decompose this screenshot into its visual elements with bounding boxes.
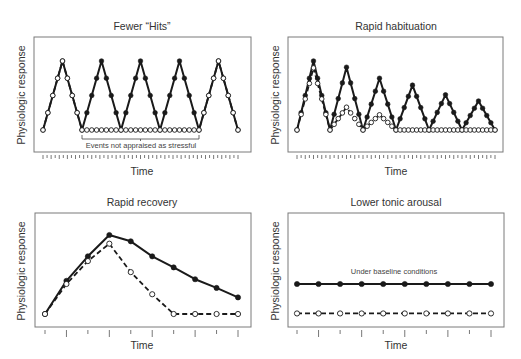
- open-marker: [55, 76, 60, 81]
- y-axis-label: Physiologic response: [15, 45, 27, 144]
- filled-marker: [373, 89, 378, 94]
- filled-marker: [439, 101, 444, 106]
- figure: Fewer “Hits” Physiologic response Time E…: [0, 0, 521, 359]
- open-marker: [226, 93, 231, 98]
- open-marker: [163, 128, 168, 133]
- open-marker: [294, 311, 299, 316]
- filled-marker: [472, 106, 477, 111]
- panel-lower-tonic-arousal: Lower tonic arousal Physiologic response…: [269, 196, 504, 351]
- open-marker: [336, 116, 341, 121]
- panel-title: Fewer “Hits”: [113, 20, 171, 32]
- filled-marker: [187, 93, 192, 98]
- data-series: [294, 281, 493, 316]
- open-marker: [236, 128, 241, 133]
- open-marker: [340, 111, 345, 116]
- filled-marker: [338, 281, 343, 286]
- open-marker: [119, 128, 124, 133]
- filled-marker: [476, 99, 481, 104]
- series-open: [42, 241, 240, 317]
- open-marker: [85, 258, 90, 263]
- x-axis-label: Time: [131, 165, 154, 177]
- open-marker: [211, 76, 216, 81]
- open-marker: [316, 311, 321, 316]
- filled-marker: [99, 59, 104, 64]
- open-marker: [85, 128, 90, 133]
- filled-marker: [480, 106, 485, 111]
- series-open: [41, 59, 241, 133]
- filled-marker: [177, 59, 182, 64]
- open-marker: [493, 128, 498, 133]
- open-marker: [319, 97, 324, 102]
- filled-marker: [431, 119, 436, 124]
- filled-marker: [381, 89, 386, 94]
- filled-marker: [193, 277, 198, 282]
- open-marker: [75, 110, 80, 115]
- filled-marker: [148, 93, 153, 98]
- filled-marker: [435, 110, 440, 115]
- open-marker: [381, 116, 386, 121]
- open-marker: [192, 128, 197, 133]
- open-marker: [328, 128, 333, 133]
- open-marker: [344, 105, 349, 110]
- panel-title: Rapid habituation: [355, 20, 437, 32]
- x-axis-ticks: [297, 330, 491, 337]
- open-marker: [171, 311, 176, 316]
- filled-marker: [451, 110, 456, 115]
- data-series: [41, 59, 241, 133]
- x-axis-label: Time: [131, 339, 154, 351]
- filled-marker: [398, 116, 403, 121]
- open-marker: [124, 128, 129, 133]
- open-marker: [348, 111, 353, 116]
- open-marker: [80, 128, 85, 133]
- open-marker: [369, 120, 374, 125]
- filled-marker: [468, 113, 473, 118]
- data-series: [42, 232, 240, 316]
- open-marker: [177, 128, 182, 133]
- filled-marker: [85, 110, 90, 115]
- filled-marker: [167, 93, 172, 98]
- filled-marker: [104, 76, 109, 81]
- x-axis-ticks: [45, 330, 238, 337]
- open-marker: [109, 128, 114, 133]
- filled-marker: [182, 76, 187, 81]
- filled-marker: [348, 81, 353, 86]
- panel-rapid-habituation: Rapid habituation Physiologic response T…: [269, 20, 503, 177]
- filled-marker: [488, 281, 493, 286]
- filled-marker: [114, 110, 119, 115]
- filled-marker: [94, 76, 99, 81]
- plot-frame: [34, 37, 251, 152]
- panel-title: Rapid recovery: [107, 196, 178, 208]
- open-marker: [206, 93, 211, 98]
- filled-marker: [390, 115, 395, 120]
- open-marker: [42, 311, 47, 316]
- open-marker: [361, 128, 366, 133]
- filled-marker: [316, 281, 321, 286]
- filled-marker: [143, 76, 148, 81]
- open-marker: [202, 110, 207, 115]
- filled-marker: [467, 281, 472, 286]
- filled-marker: [359, 281, 364, 286]
- filled-marker: [109, 93, 114, 98]
- filled-marker: [365, 115, 370, 120]
- filled-marker: [332, 112, 337, 117]
- open-marker: [377, 113, 382, 118]
- filled-marker: [410, 83, 415, 88]
- y-axis-label: Physiologic response: [269, 45, 281, 144]
- series-filled: [294, 281, 493, 286]
- filled-marker: [414, 94, 419, 99]
- open-marker: [197, 128, 202, 133]
- filled-marker: [377, 76, 382, 81]
- filled-marker: [385, 102, 390, 107]
- open-marker: [359, 311, 364, 316]
- filled-marker: [128, 239, 133, 244]
- open-marker: [352, 116, 357, 121]
- open-marker: [182, 128, 187, 133]
- open-marker: [315, 81, 320, 86]
- open-marker: [138, 128, 143, 133]
- open-marker: [167, 128, 172, 133]
- open-marker: [89, 128, 94, 133]
- open-marker: [402, 311, 407, 316]
- open-marker: [445, 311, 450, 316]
- x-axis-label: Time: [385, 339, 408, 351]
- open-marker: [324, 112, 329, 117]
